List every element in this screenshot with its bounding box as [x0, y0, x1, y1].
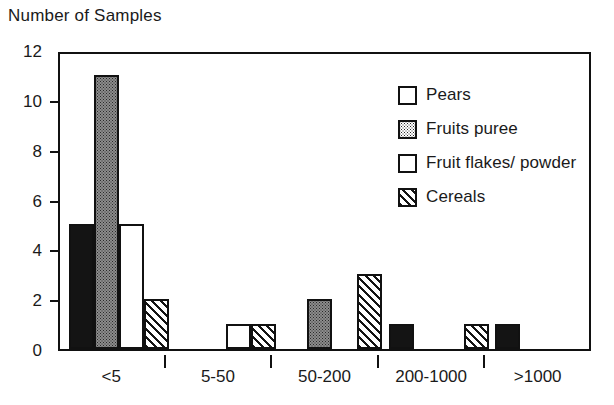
x-tick-mark: [270, 355, 272, 368]
bar: [69, 224, 94, 349]
white-swatch: [398, 154, 417, 173]
bar: [389, 324, 414, 349]
diagonal-hatch-swatch: [398, 188, 417, 207]
bar: [357, 274, 382, 349]
x-tick-label: 50-200: [298, 367, 351, 387]
bar: [495, 324, 520, 349]
solid-black-swatch: [398, 86, 417, 105]
legend-item-label: Fruit flakes/ powder: [426, 153, 576, 173]
y-tick-label: 2: [33, 291, 42, 311]
stippled-gray-swatch: [398, 120, 417, 139]
y-axis: 024681012: [0, 52, 52, 351]
bar: [94, 75, 119, 349]
x-tick-mark: [164, 355, 166, 368]
bar: [144, 299, 169, 349]
y-tick-mark: [50, 101, 58, 103]
y-tick-label: 4: [33, 241, 42, 261]
legend-item: Cereals: [398, 180, 603, 214]
y-tick-label: 12: [23, 42, 42, 62]
bar: [307, 299, 332, 349]
y-tick-mark: [50, 201, 58, 203]
bar: [119, 224, 144, 349]
x-tick-mark: [377, 355, 379, 368]
y-tick-mark: [50, 300, 58, 302]
bar-chart-figure: Number of Samples 024681012 <55-5050-200…: [0, 0, 614, 405]
chart-title: Number of Samples: [8, 6, 162, 26]
x-axis: <55-5050-200200-1000>1000: [58, 355, 591, 389]
bar: [226, 324, 251, 349]
legend-item-label: Fruits puree: [426, 119, 518, 139]
x-tick-label: <5: [102, 367, 121, 387]
legend-item-label: Pears: [426, 85, 471, 105]
y-tick-label: 0: [33, 341, 42, 361]
y-tick-label: 10: [23, 92, 42, 112]
legend-item: Pears: [398, 78, 603, 112]
bar: [251, 324, 276, 349]
y-tick-mark: [50, 250, 58, 252]
chart-legend: PearsFruits pureeFruit flakes/ powderCer…: [398, 78, 603, 214]
bar: [464, 324, 489, 349]
x-tick-label: 200-1000: [395, 367, 467, 387]
legend-item: Fruit flakes/ powder: [398, 146, 603, 180]
x-tick-label: 5-50: [201, 367, 235, 387]
y-tick-mark: [50, 151, 58, 153]
x-tick-mark: [483, 355, 485, 368]
legend-item-label: Cereals: [426, 187, 485, 207]
x-tick-label: >1000: [514, 367, 562, 387]
y-tick-label: 8: [33, 142, 42, 162]
y-tick-label: 6: [33, 192, 42, 212]
legend-item: Fruits puree: [398, 112, 603, 146]
